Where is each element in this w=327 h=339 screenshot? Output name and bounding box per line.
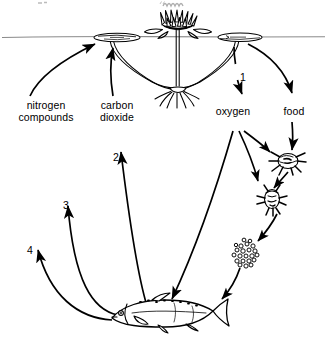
lily-pad-right <box>218 33 262 41</box>
annotation-number-3: 3 <box>63 200 69 211</box>
insect-larva-icon <box>269 152 306 175</box>
label-carbon-dioxide-line1: carbon <box>88 99 146 111</box>
arrow-bacteria-to-fish <box>222 268 240 299</box>
bacteria-cluster-icon <box>232 238 259 268</box>
label-nitrogen-compounds-line2: compounds <box>10 111 82 123</box>
arrow-2-fish-to-carbon-dioxide <box>121 152 147 306</box>
arrow-3-fish-to-carbon-dioxide <box>68 206 118 315</box>
arrow-oxygen-to-fish <box>172 131 233 299</box>
crustacean-icon <box>257 185 287 216</box>
fish-icon <box>112 293 229 333</box>
label-oxygen: oxygen <box>209 105 257 117</box>
cropped-top-text <box>38 2 183 7</box>
arrow-plant-to-food <box>248 44 292 93</box>
lily-pad-left <box>94 33 140 41</box>
label-nitrogen-compounds: nitrogen compounds <box>10 99 82 123</box>
arrow-insect-larva-to-crustacean <box>274 172 288 188</box>
label-nitrogen-compounds-line1: nitrogen <box>10 99 82 111</box>
lily-flower <box>161 10 198 30</box>
arrow-carbon-dioxide-to-plant <box>111 48 113 96</box>
arrow-4-fish-to-nitrogen <box>38 250 112 320</box>
arrow-crustacean-to-bacteria <box>258 214 277 241</box>
annotation-number-4: 4 <box>27 245 33 256</box>
label-carbon-dioxide-line2: dioxide <box>88 111 146 123</box>
arrow-food-to-insect-larva <box>292 122 293 150</box>
diagram-canvas <box>0 0 327 339</box>
arrow-nitrogen-to-plant <box>30 44 95 96</box>
pond-cycle-diagram: nitrogen compounds carbon dioxide oxygen… <box>0 0 327 339</box>
label-food: food <box>277 105 311 117</box>
annotation-number-2: 2 <box>113 152 119 163</box>
label-carbon-dioxide: carbon dioxide <box>88 99 146 123</box>
annotation-number-1: 1 <box>240 72 246 83</box>
arrow-oxygen-to-insect-larva <box>244 131 270 152</box>
water-lily-plant <box>110 10 239 108</box>
